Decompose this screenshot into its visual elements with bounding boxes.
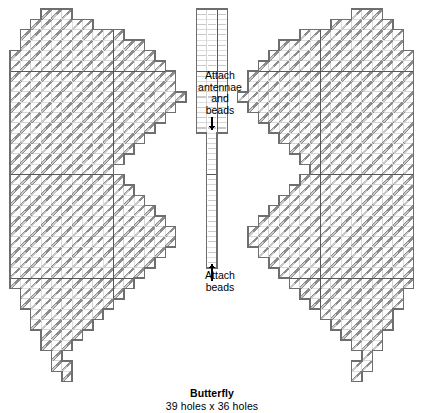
pattern-size-label: 39 holes x 36 holes — [0, 400, 424, 412]
annotation-line: Attach — [172, 270, 268, 282]
butterfly-pattern-svg — [0, 0, 424, 390]
annotation-line: Attach — [172, 70, 268, 82]
page-title: Butterfly — [0, 387, 424, 399]
annotation-attach-antennae: Attachantennaeandbeads — [172, 70, 268, 116]
annotation-line: beads — [172, 105, 268, 117]
annotation-attach-beads: Attachbeads — [172, 270, 268, 293]
pattern-chart-area — [0, 0, 424, 390]
annotation-line: beads — [172, 282, 268, 294]
